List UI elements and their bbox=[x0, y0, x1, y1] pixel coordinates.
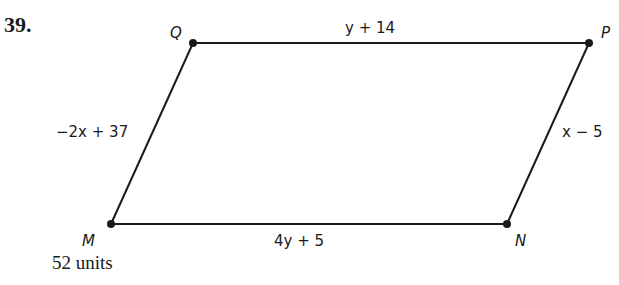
vertex-points bbox=[107, 39, 593, 228]
parallelogram-figure: Q P M N y + 14 x − 5 4y + 5 −2x + 37 bbox=[0, 0, 619, 285]
vertex-m-dot bbox=[107, 220, 115, 228]
answer-text: 52 units bbox=[52, 252, 113, 274]
vertex-n-dot bbox=[503, 220, 511, 228]
vertex-p-label: P bbox=[601, 24, 611, 42]
vertex-m-label: M bbox=[82, 232, 95, 250]
vertex-n-label: N bbox=[515, 232, 526, 250]
side-pn-label: x − 5 bbox=[562, 123, 603, 141]
side-qm-label: −2x + 37 bbox=[56, 123, 128, 141]
parallelogram-sides bbox=[111, 43, 589, 224]
side-mn-label: 4y + 5 bbox=[274, 232, 324, 250]
side-qp-label: y + 14 bbox=[345, 19, 395, 37]
vertex-q-dot bbox=[189, 39, 197, 47]
vertex-q-label: Q bbox=[170, 24, 182, 42]
vertex-p-dot bbox=[585, 39, 593, 47]
